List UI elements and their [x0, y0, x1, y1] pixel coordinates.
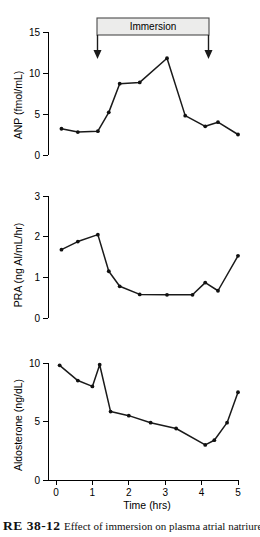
panel-aldosterone: Aldosterone (ng/dL) 0510	[12, 358, 240, 486]
x-axis-title: Time (hrs)	[123, 499, 170, 511]
data-point	[174, 427, 178, 431]
y-tick-label: 0	[34, 313, 40, 324]
aldosterone-y-axis-title: Aldosterone (ng/dL)	[12, 379, 24, 471]
anp-data-series	[60, 56, 240, 136]
series-line	[61, 235, 238, 295]
y-tick-label: 10	[29, 68, 41, 79]
three-panel-time-series-chart: Immersion ANP (fmol/mL) 051015 PRA (ng A…	[0, 0, 260, 537]
data-point	[118, 82, 122, 86]
data-point	[76, 240, 80, 244]
y-tick-label: 5	[34, 416, 40, 427]
anp-axes: 051015	[29, 27, 48, 161]
data-point	[225, 421, 229, 425]
data-point	[107, 269, 111, 273]
figure-container: Immersion ANP (fmol/mL) 051015 PRA (ng A…	[0, 0, 260, 537]
data-point	[91, 385, 95, 389]
series-line	[60, 365, 238, 445]
data-point	[96, 233, 100, 237]
x-tick-label: 0	[53, 487, 59, 498]
y-tick-label: 10	[29, 358, 41, 369]
y-tick-label: 0	[34, 150, 40, 161]
data-point	[165, 293, 169, 297]
x-tick-label: 5	[235, 487, 241, 498]
data-point	[76, 130, 80, 134]
x-tick-label: 2	[126, 487, 132, 498]
pra-axes: 0123	[34, 191, 48, 324]
data-point	[58, 363, 62, 367]
data-point	[118, 284, 122, 288]
caption-body: Effect of immersion on plasma atrial nat…	[64, 520, 260, 532]
data-point	[236, 254, 240, 258]
aldosterone-data-series	[58, 363, 240, 447]
data-point	[107, 110, 111, 114]
pra-data-series	[60, 233, 240, 297]
figure-caption: RE 38-12 Effect of immersion on plasma a…	[0, 520, 260, 537]
data-point	[127, 414, 131, 418]
data-point	[109, 410, 113, 414]
y-tick-label: 3	[34, 191, 40, 202]
caption-number: RE 38-12	[3, 520, 61, 533]
panel-pra: PRA (ng AI/mL/hr) 0123	[12, 191, 240, 324]
data-point	[212, 438, 216, 442]
data-point	[191, 293, 195, 297]
data-point	[236, 133, 240, 137]
pra-y-axis-title: PRA (ng AI/mL/hr)	[12, 223, 24, 308]
data-point	[216, 289, 220, 293]
shared-x-axis: 012345	[48, 480, 241, 498]
data-point	[165, 56, 169, 60]
data-point	[203, 281, 207, 285]
y-tick-label: 1	[34, 272, 40, 283]
anp-y-axis-title: ANP (fmol/mL)	[12, 71, 24, 140]
data-point	[60, 127, 64, 131]
data-point	[98, 363, 102, 367]
y-tick-label: 15	[29, 27, 41, 38]
immersion-label: Immersion	[130, 21, 177, 32]
immersion-end-arrow-down-icon	[205, 35, 213, 59]
data-point	[76, 379, 80, 383]
y-tick-label: 5	[34, 109, 40, 120]
data-point	[203, 443, 207, 447]
data-point	[183, 114, 187, 118]
y-tick-label: 2	[34, 231, 40, 242]
x-tick-label: 1	[90, 487, 96, 498]
data-point	[216, 120, 220, 124]
data-point	[149, 421, 153, 425]
data-point	[236, 390, 240, 394]
series-line	[61, 58, 238, 134]
immersion-annotation: Immersion	[94, 18, 213, 59]
panel-anp: ANP (fmol/mL) 051015	[12, 27, 240, 161]
data-point	[138, 293, 142, 297]
x-tick-label: 4	[199, 487, 205, 498]
data-point	[203, 124, 207, 128]
immersion-start-arrow-down-icon	[94, 35, 102, 59]
data-point	[60, 248, 64, 252]
data-point	[138, 81, 142, 85]
data-point	[96, 129, 100, 133]
y-tick-label: 0	[34, 475, 40, 486]
aldosterone-axes: 0510	[29, 358, 48, 486]
x-tick-label: 3	[162, 487, 168, 498]
